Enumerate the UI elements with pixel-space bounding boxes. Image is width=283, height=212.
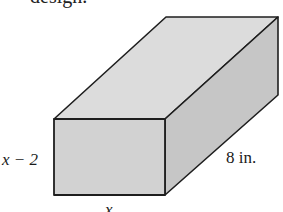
prism-front-face	[54, 119, 165, 195]
height-label-text: x − 2	[2, 150, 38, 169]
figure-stage: design. x − 2 8 in. x	[0, 0, 283, 212]
depth-label: 8 in.	[226, 149, 256, 166]
height-label: x − 2	[2, 151, 38, 168]
rectangular-prism-diagram	[0, 0, 283, 212]
width-label: x	[105, 201, 113, 212]
